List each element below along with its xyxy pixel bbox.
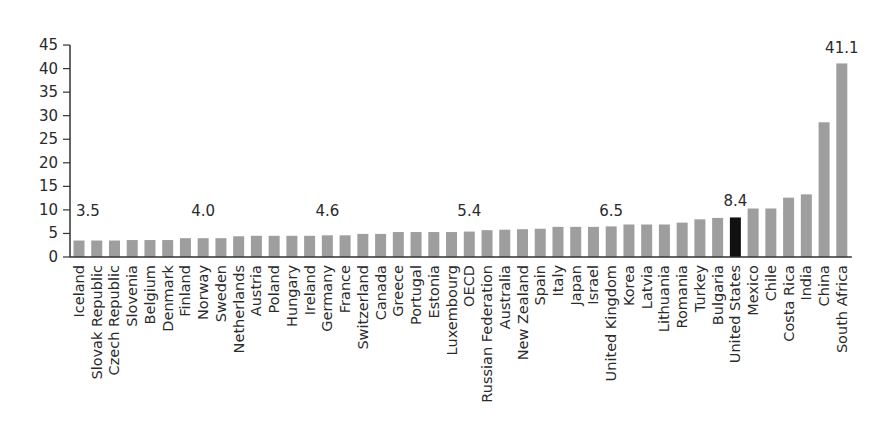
y-tick-label: 45 — [39, 36, 58, 54]
x-tick-label: Japan — [568, 265, 584, 306]
x-tick-label: Mexico — [745, 265, 761, 316]
bar-south-africa — [836, 63, 847, 257]
y-tick-label: 40 — [39, 60, 58, 78]
value-annotation: 41.1 — [825, 39, 858, 57]
x-tick-label: Finland — [177, 265, 193, 317]
y-tick-label: 15 — [39, 177, 58, 195]
value-annotation: 6.5 — [599, 202, 623, 220]
bar-costa-rica — [783, 198, 794, 257]
bar-austria — [251, 236, 262, 257]
bar-bulgaria — [712, 218, 723, 257]
bar-netherlands — [233, 236, 244, 257]
bar-greece — [393, 232, 404, 257]
x-tick-label: India — [798, 265, 814, 301]
y-axis: 051015202530354045 — [39, 36, 70, 266]
bar-romania — [677, 223, 688, 257]
value-annotation: 5.4 — [457, 202, 481, 220]
bar-russian-federation — [482, 230, 493, 257]
bar-estonia — [428, 232, 439, 257]
bar-chile — [765, 208, 776, 257]
value-annotation: 3.5 — [76, 202, 100, 220]
bar-luxembourg — [446, 232, 457, 257]
bar-switzerland — [357, 234, 368, 257]
bar-latvia — [641, 225, 652, 257]
x-tick-label: Portugal — [408, 265, 424, 325]
bar-lithuania — [659, 225, 670, 257]
x-tick-label: Costa Rica — [781, 265, 797, 342]
y-tick-label: 35 — [39, 83, 58, 101]
bar-czech-republic — [109, 241, 120, 257]
y-tick-label: 20 — [39, 154, 58, 172]
x-tick-label: Czech Republic — [106, 265, 122, 375]
bar-china — [819, 122, 830, 257]
x-tick-label: United Kingdom — [603, 265, 619, 381]
bars — [74, 63, 848, 257]
y-tick-label: 0 — [48, 248, 58, 266]
x-tick-label: Korea — [621, 265, 637, 306]
x-tick-label: Hungary — [284, 265, 300, 327]
x-tick-label: Canada — [373, 265, 389, 320]
bar-turkey — [694, 219, 705, 257]
bar-canada — [375, 234, 386, 257]
y-tick-label: 25 — [39, 130, 58, 148]
value-annotation: 8.4 — [723, 192, 747, 210]
bar-australia — [499, 230, 510, 257]
bar-mexico — [748, 208, 759, 257]
x-tick-label: Australia — [497, 265, 513, 329]
bar-korea — [623, 225, 634, 257]
x-tick-label: New Zealand — [515, 265, 531, 360]
x-tick-label: Turkey — [692, 265, 708, 314]
x-tick-label: Belgium — [142, 265, 158, 324]
x-tick-label: France — [337, 265, 353, 313]
x-tick-label: OECD — [461, 265, 477, 307]
x-tick-label: Romania — [674, 265, 690, 328]
x-tick-label: Lithuania — [656, 265, 672, 332]
bar-poland — [269, 236, 280, 257]
bar-sweden — [215, 238, 226, 257]
y-tick-label: 30 — [39, 107, 58, 125]
y-tick-label: 5 — [48, 224, 58, 242]
x-tick-label: United States — [727, 265, 743, 363]
bar-united-states — [730, 217, 741, 257]
x-tick-label: Sweden — [213, 265, 229, 322]
x-tick-label: Greece — [390, 265, 406, 317]
x-tick-label: Poland — [266, 265, 282, 313]
x-tick-label: Italy — [550, 265, 566, 297]
x-tick-label: Austria — [248, 265, 264, 316]
x-axis-labels: IcelandSlovak RepublicCzech RepublicSlov… — [71, 264, 850, 402]
bar-slovak-republic — [91, 241, 102, 257]
bar-ireland — [304, 236, 315, 257]
x-tick-label: Ireland — [302, 265, 318, 315]
bar-oecd — [464, 232, 475, 257]
x-tick-label: Denmark — [160, 264, 176, 331]
x-tick-label: Iceland — [71, 265, 87, 317]
bar-iceland — [74, 241, 85, 257]
value-annotation: 4.6 — [315, 202, 339, 220]
bar-slovenia — [127, 240, 138, 257]
bar-israel — [588, 227, 599, 257]
bar-norway — [198, 238, 209, 257]
bar-hungary — [286, 236, 297, 257]
bar-finland — [180, 238, 191, 257]
bar-italy — [552, 227, 563, 257]
bar-france — [340, 235, 351, 257]
x-tick-label: Slovak Republic — [89, 265, 105, 380]
bar-germany — [322, 235, 333, 257]
bar-new-zealand — [517, 229, 528, 257]
x-tick-label: Latvia — [639, 265, 655, 309]
x-tick-label: Chile — [763, 265, 779, 301]
value-annotation: 4.0 — [191, 202, 215, 220]
x-tick-label: Slovenia — [124, 265, 140, 327]
bar-portugal — [411, 232, 422, 257]
x-tick-label: Israel — [585, 265, 601, 305]
value-annotations: 3.54.04.65.46.58.441.1 — [76, 39, 858, 219]
x-tick-label: China — [816, 265, 832, 306]
bar-japan — [570, 227, 581, 257]
x-tick-label: Netherlands — [231, 265, 247, 353]
bar-belgium — [144, 240, 155, 257]
x-tick-label: Germany — [319, 265, 335, 332]
x-tick-label: Norway — [195, 265, 211, 320]
x-tick-label: Luxembourg — [444, 265, 460, 355]
bar-india — [801, 194, 812, 257]
bar-spain — [535, 229, 546, 257]
